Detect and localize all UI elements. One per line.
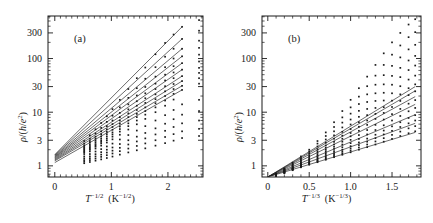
- data-point: [399, 115, 401, 117]
- data-point: [106, 125, 108, 127]
- data-point: [144, 78, 146, 80]
- data-point: [375, 64, 377, 66]
- data-point: [106, 138, 108, 140]
- data-point: [144, 143, 146, 145]
- data-point: [83, 140, 85, 142]
- data-point: [366, 134, 368, 136]
- data-point: [391, 54, 393, 56]
- data-point: [366, 120, 368, 122]
- data-point: [198, 83, 200, 85]
- data-point: [100, 141, 102, 143]
- data-point: [308, 164, 310, 166]
- data-point: [95, 153, 97, 155]
- panel-a-plot: 131030100300012(a): [0, 0, 216, 223]
- data-point: [333, 138, 335, 140]
- data-point: [100, 151, 102, 153]
- data-point: [341, 122, 343, 124]
- data-point: [391, 120, 393, 122]
- data-point: [391, 42, 393, 44]
- data-point: [358, 96, 360, 98]
- fit-line: [268, 104, 415, 177]
- panel-b-y-axis-label: ρ/(h/e2): [232, 112, 244, 142]
- data-point: [366, 141, 368, 143]
- data-point: [358, 130, 360, 132]
- data-point: [399, 32, 401, 34]
- data-point: [112, 120, 114, 122]
- data-point: [366, 108, 368, 110]
- panel-b-plot: 13103010030000.51.01.5(b): [216, 0, 433, 223]
- data-point: [164, 74, 166, 76]
- data-point: [106, 128, 108, 130]
- data-point: [350, 147, 352, 149]
- data-point: [100, 138, 102, 140]
- data-point: [155, 83, 157, 85]
- data-point: [112, 143, 114, 145]
- y-tick-label: 100: [27, 53, 42, 64]
- data-point: [391, 125, 393, 127]
- data-point: [173, 93, 175, 95]
- data-point: [181, 75, 183, 77]
- data-point: [408, 132, 410, 134]
- data-point: [164, 123, 166, 125]
- data-point: [375, 75, 377, 77]
- y-tick-label: 100: [241, 53, 256, 64]
- figure-container: 131030100300012(a) ρ/(h/e2) T−1/2 (K−1/2…: [0, 0, 433, 223]
- data-point: [408, 36, 410, 38]
- data-point: [341, 135, 343, 137]
- data-point: [106, 157, 108, 159]
- data-point: [136, 130, 138, 132]
- data-point: [89, 158, 91, 160]
- data-point: [366, 144, 368, 146]
- data-point: [95, 158, 97, 160]
- data-point: [164, 136, 166, 138]
- data-point: [333, 130, 335, 132]
- fit-line: [55, 56, 182, 156]
- data-point: [136, 113, 138, 115]
- data-point: [112, 156, 114, 158]
- data-point: [317, 146, 319, 148]
- data-point: [89, 159, 91, 161]
- data-point: [383, 141, 385, 143]
- data-point: [95, 138, 97, 140]
- data-point: [136, 123, 138, 125]
- data-point: [198, 120, 200, 122]
- data-point: [100, 154, 102, 156]
- data-point: [391, 113, 393, 115]
- data-point: [155, 134, 157, 136]
- data-point: [341, 131, 343, 133]
- data-point: [391, 106, 393, 108]
- data-point: [383, 106, 385, 108]
- data-point: [155, 53, 157, 55]
- data-point: [100, 130, 102, 132]
- data-point: [333, 141, 335, 143]
- data-point: [375, 144, 377, 146]
- data-point: [106, 146, 108, 148]
- data-point: [119, 112, 121, 114]
- data-point: [95, 133, 97, 135]
- panel-b-x-axis-label: T−1/3 (K−1/3): [244, 192, 409, 204]
- data-point: [112, 129, 114, 131]
- data-point: [341, 154, 343, 156]
- data-point: [119, 134, 121, 136]
- data-point: [325, 132, 327, 134]
- data-point: [155, 107, 157, 109]
- data-point: [366, 129, 368, 131]
- data-point: [341, 152, 343, 154]
- data-point: [333, 150, 335, 152]
- data-point: [333, 121, 335, 123]
- data-point: [350, 119, 352, 121]
- data-point: [144, 138, 146, 140]
- data-point: [112, 136, 114, 138]
- x-tick-label: 0: [265, 181, 270, 192]
- data-point: [119, 107, 121, 109]
- data-point: [399, 94, 401, 96]
- data-point: [391, 84, 393, 86]
- data-point: [155, 139, 157, 141]
- fit-line: [55, 70, 182, 159]
- data-point: [198, 19, 200, 21]
- data-point: [155, 98, 157, 100]
- data-point: [317, 161, 319, 163]
- data-point: [106, 115, 108, 117]
- data-point: [375, 107, 377, 109]
- data-point: [181, 48, 183, 50]
